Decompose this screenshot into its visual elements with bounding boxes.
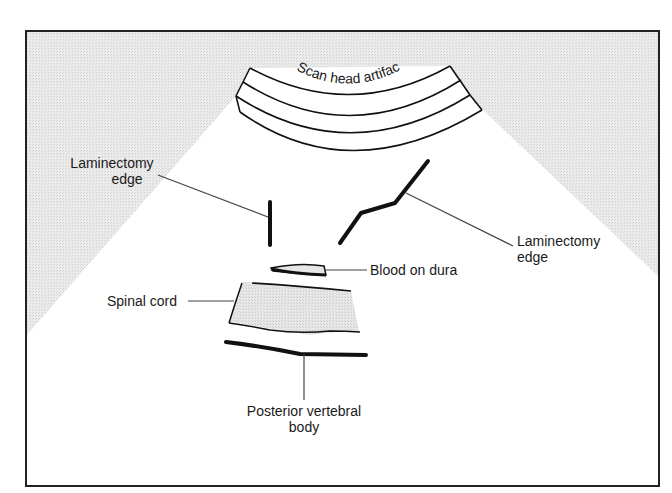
label-spinal-cord: Spinal cord: [107, 293, 177, 309]
label-line: Laminectomy: [517, 233, 600, 249]
left-laminectomy-leader: [158, 175, 268, 217]
right-laminectomy-leader: [406, 193, 513, 246]
posterior-vertebral-body: [226, 342, 366, 355]
label-laminectomy-edge-right: Laminectomy edge: [517, 233, 600, 265]
label-line: edge: [517, 249, 600, 265]
right-laminectomy-edge: [340, 161, 428, 243]
label-laminectomy-edge-left: Laminectomy edge: [62, 155, 162, 187]
label-line: body: [234, 419, 374, 435]
label-line: edge: [62, 171, 162, 187]
label-line: Laminectomy: [62, 155, 162, 171]
label-posterior-vertebral-body: Posterior vertebral body: [234, 403, 374, 435]
label-line: Posterior vertebral: [234, 403, 374, 419]
label-blood-on-dura: Blood on dura: [370, 262, 457, 278]
